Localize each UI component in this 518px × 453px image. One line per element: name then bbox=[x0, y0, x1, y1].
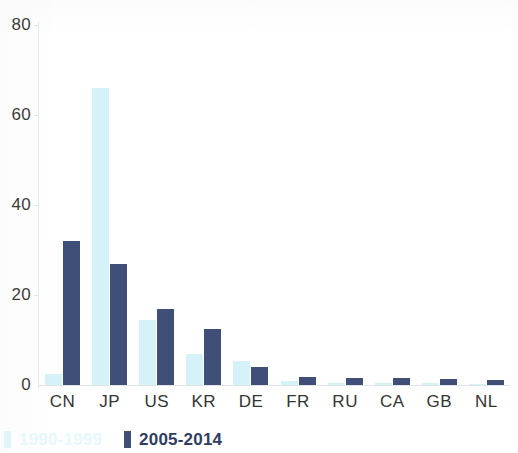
y-tick-label-40: 40 bbox=[11, 196, 31, 213]
x-tick-label-ca: CA bbox=[369, 392, 416, 412]
bar-jp-series-a bbox=[92, 88, 109, 385]
bar-chart-figure: 80 60 40 20 0 CNJPUSKRDEFRRUCAGBNL 1990-… bbox=[0, 0, 518, 453]
bar-nl-series-b bbox=[487, 380, 504, 385]
bar-group-us bbox=[133, 0, 180, 453]
x-tick-label-ru: RU bbox=[322, 392, 369, 412]
y-tick-label-60: 60 bbox=[11, 106, 31, 123]
x-tick-label-nl: NL bbox=[463, 392, 510, 412]
legend-swatch-icon-series-b bbox=[124, 431, 131, 448]
bar-group-ru bbox=[322, 0, 369, 453]
bar-nl-series-a bbox=[469, 384, 486, 385]
x-tick-label-us: US bbox=[133, 392, 180, 412]
y-axis-tick-labels: 80 60 40 20 0 bbox=[0, 0, 31, 453]
legend-label-series-b: 2005-2014 bbox=[139, 431, 222, 448]
x-tick-label-fr: FR bbox=[275, 392, 322, 412]
legend-swatch-icon-series-a bbox=[4, 431, 11, 448]
y-tick-label-20: 20 bbox=[11, 286, 31, 303]
bar-cn-series-b bbox=[63, 241, 80, 385]
bar-gb-series-b bbox=[440, 379, 457, 385]
bar-group-ca bbox=[369, 0, 416, 453]
bar-de-series-a bbox=[233, 361, 250, 385]
bar-us-series-a bbox=[139, 320, 156, 385]
x-tick-label-gb: GB bbox=[416, 392, 463, 412]
bar-ca-series-a bbox=[375, 383, 392, 385]
bar-jp-series-b bbox=[110, 264, 127, 386]
bar-group-jp bbox=[86, 0, 133, 453]
x-axis-category-labels: CNJPUSKRDEFRRUCAGBNL bbox=[39, 392, 510, 416]
x-tick-label-kr: KR bbox=[180, 392, 227, 412]
bar-group-fr bbox=[275, 0, 322, 453]
bar-us-series-b bbox=[157, 309, 174, 386]
bar-group-gb bbox=[416, 0, 463, 453]
legend-entry-2005-2014: 2005-2014 bbox=[124, 431, 222, 448]
chart-legend: 1990-1999 2005-2014 bbox=[4, 428, 222, 450]
x-tick-label-cn: CN bbox=[39, 392, 86, 412]
bar-ru-series-a bbox=[328, 383, 345, 385]
bar-cn-series-a bbox=[45, 374, 62, 385]
legend-label-series-a: 1990-1999 bbox=[19, 431, 102, 448]
bar-ru-series-b bbox=[346, 378, 363, 385]
y-tick-label-80: 80 bbox=[11, 16, 31, 33]
bar-de-series-b bbox=[251, 367, 268, 385]
legend-entry-1990-1999: 1990-1999 bbox=[4, 431, 102, 448]
bar-fr-series-b bbox=[299, 377, 316, 385]
bar-group-kr bbox=[180, 0, 227, 453]
bar-group-de bbox=[227, 0, 274, 453]
bar-group-nl bbox=[463, 0, 510, 453]
bar-kr-series-b bbox=[204, 329, 221, 385]
y-tick-label-0: 0 bbox=[21, 376, 31, 393]
x-tick-label-jp: JP bbox=[86, 392, 133, 412]
bar-fr-series-a bbox=[281, 381, 298, 385]
bar-group-cn bbox=[39, 0, 86, 453]
bar-ca-series-b bbox=[393, 378, 410, 385]
x-tick-label-de: DE bbox=[227, 392, 274, 412]
bar-gb-series-a bbox=[422, 383, 439, 385]
bar-kr-series-a bbox=[186, 354, 203, 386]
bars-layer bbox=[39, 0, 510, 453]
